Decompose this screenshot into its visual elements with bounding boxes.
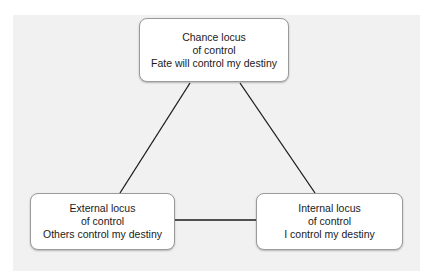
node-description: Fate will control my destiny: [151, 57, 277, 70]
node-subtitle: of control: [308, 215, 351, 228]
node-external-locus: External locus of control Others control…: [30, 193, 175, 250]
node-title: Chance locus: [182, 31, 246, 44]
node-title: Internal locus: [298, 202, 360, 215]
edge-chance-internal: [240, 83, 315, 193]
node-description: Others control my destiny: [43, 228, 162, 241]
node-internal-locus: Internal locus of control I control my d…: [256, 193, 403, 250]
node-subtitle: of control: [81, 215, 124, 228]
node-subtitle: of control: [192, 44, 235, 57]
node-description: I control my destiny: [284, 228, 374, 241]
edge-chance-external: [120, 83, 190, 193]
node-title: External locus: [70, 202, 136, 215]
node-chance-locus: Chance locus of control Fate will contro…: [139, 18, 289, 82]
